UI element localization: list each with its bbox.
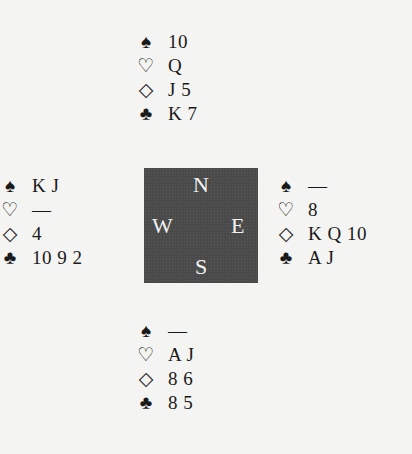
compass-south-label: S — [195, 254, 207, 280]
club-icon: ♣ — [136, 102, 156, 126]
heart-icon: ♡ — [136, 343, 156, 367]
south-clubs-cards: 8 5 — [168, 391, 193, 415]
west-hearts-cards: — — [32, 198, 52, 222]
diamond-icon: ◇ — [276, 222, 296, 246]
club-icon: ♣ — [276, 246, 296, 270]
north-diamonds-cards: J 5 — [168, 78, 191, 102]
south-spades-cards: — — [168, 319, 188, 343]
north-clubs-cards: K 7 — [168, 102, 197, 126]
diamond-icon: ◇ — [136, 78, 156, 102]
compass-box: N W E S — [144, 168, 258, 283]
heart-icon: ♡ — [276, 198, 296, 222]
north-spades-cards: 10 — [168, 30, 188, 54]
south-hearts-cards: A J — [168, 343, 194, 367]
club-icon: ♣ — [0, 246, 20, 270]
west-spades-cards: K J — [32, 174, 59, 198]
heart-icon: ♡ — [0, 198, 20, 222]
club-icon: ♣ — [136, 391, 156, 415]
south-diamonds-cards: 8 6 — [168, 367, 193, 391]
heart-icon: ♡ — [136, 54, 156, 78]
spade-icon: ♠ — [136, 319, 156, 343]
north-hearts-cards: Q — [168, 54, 182, 78]
east-spades-cards: — — [308, 174, 328, 198]
west-clubs-cards: 10 9 2 — [32, 246, 83, 270]
spade-icon: ♠ — [0, 174, 20, 198]
diamond-icon: ◇ — [0, 222, 20, 246]
compass-west-label: W — [152, 213, 173, 239]
east-clubs-cards: A J — [308, 246, 334, 270]
spade-icon: ♠ — [136, 30, 156, 54]
compass-east-label: E — [231, 213, 244, 239]
diamond-icon: ◇ — [136, 367, 156, 391]
compass-north-label: N — [193, 172, 209, 198]
east-diamonds-cards: K Q 10 — [308, 222, 367, 246]
spade-icon: ♠ — [276, 174, 296, 198]
west-diamonds-cards: 4 — [32, 222, 42, 246]
east-hearts-cards: 8 — [308, 198, 318, 222]
